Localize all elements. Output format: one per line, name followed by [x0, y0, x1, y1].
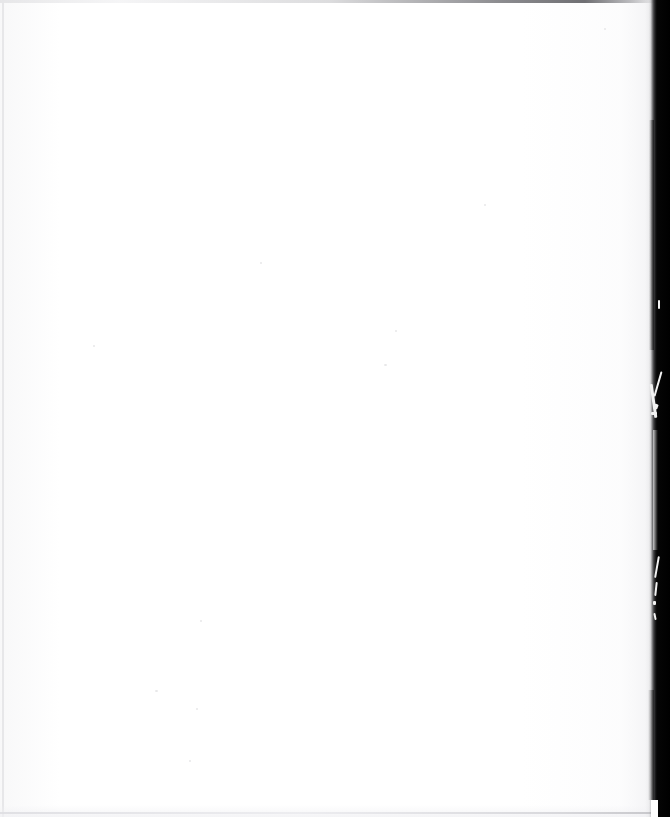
scanned-page: Blank scanned page Dark book-gutter edge… — [0, 0, 670, 817]
gutter-edge-variation — [651, 800, 658, 817]
dust-speck — [260, 262, 262, 264]
dust-speck — [196, 708, 198, 710]
top-edge-rule — [0, 0, 670, 3]
dust-speck — [604, 28, 606, 30]
left-edge-rule — [2, 0, 4, 817]
paper-tear-fleck — [651, 412, 657, 415]
dust-speck — [484, 204, 486, 206]
dust-speck — [384, 364, 387, 366]
gutter-edge-variation — [653, 430, 658, 550]
gutter-edge-variation — [649, 120, 654, 350]
paper-fiber-streak — [658, 300, 660, 309]
dust-speck — [189, 760, 191, 762]
paper-field — [0, 0, 670, 817]
dust-speck — [200, 620, 202, 622]
dust-speck — [155, 690, 158, 692]
dust-speck — [395, 330, 397, 332]
gutter-edge-variation — [648, 690, 654, 800]
gutter-band-label: Dark book-gutter edge shadow — [651, 0, 652, 1]
paper-tear-fleck — [653, 601, 656, 605]
dust-speck — [93, 345, 95, 347]
bottom-edge-rule — [0, 812, 652, 814]
